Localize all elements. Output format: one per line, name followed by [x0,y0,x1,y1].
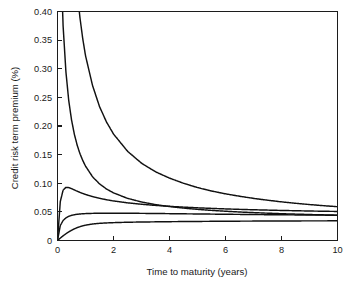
y-tick-label-4: 0.20 [34,121,52,131]
y-tick-label-6: 0.30 [34,64,52,74]
x-axis-title: Time to maturity (years) [147,266,248,277]
x-tick-label-0: 0 [55,245,60,255]
axes-group [58,12,338,241]
y-tick-label-2: 0.10 [34,179,52,189]
plot-frame [58,12,338,241]
chart-figure: 00.050.100.150.200.250.300.350.40 024681… [0,0,348,285]
y-tick-label-7: 0.35 [34,35,52,45]
x-tick-label-5: 10 [332,245,342,255]
curves-group [58,0,338,241]
x-tick-label-1: 2 [111,245,116,255]
curve-1 [58,0,338,207]
y-tick-label-8: 0.40 [34,7,52,17]
curve-5 [58,221,338,241]
credit-risk-term-premium-chart: 00.050.100.150.200.250.300.350.40 024681… [0,0,348,285]
y-tick-label-0: 0 [47,236,52,246]
y-tick-label-5: 0.25 [34,93,52,103]
x-tick-label-2: 4 [167,245,172,255]
y-tick-labels: 00.050.100.150.200.250.300.350.40 [34,7,52,246]
x-tick-labels: 0246810 [55,245,343,255]
y-tick-label-3: 0.15 [34,150,52,160]
y-tick-label-1: 0.05 [34,207,52,217]
curve-4 [58,213,338,240]
x-tick-label-3: 6 [223,245,228,255]
y-axis-title: Credit risk term premium (%) [9,67,20,190]
ticks-group [58,12,338,241]
x-tick-label-4: 8 [279,245,284,255]
